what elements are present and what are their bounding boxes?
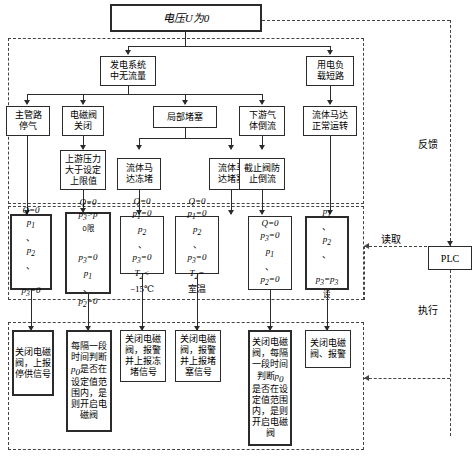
conn-blockage-bus [139,138,231,139]
box-signal-1: Q=0p1、p2、p3=0 [10,214,52,290]
conn-signal3-to-action3 [142,274,143,330]
label-read: 读取 [380,234,402,246]
box-action-4: 关闭电磁阀，报警并上报堵塞信号 [175,330,221,382]
conn-signal1-to-action1 [31,290,32,330]
arrow-to-stop-valve [259,145,265,150]
box-stop-valve-prevent-backflow-2: 截止阀防止倒流 [239,158,285,190]
box-signal-4: Q=0p1=0p2、p3=0T2=室温 [175,216,219,274]
box-action-2: 每隔一段时间判断p0是否在设定值范围内，是则开启电磁阀 [66,330,112,432]
label-feedback: 反馈 [418,139,438,151]
conn-cause6-to-signal6 [330,136,331,214]
box-solenoid-valve-closed: 电磁阀关闭 [62,106,104,136]
title-text: 电压U为0 [162,13,210,24]
box-downstream-gas-backflow: 下游气体倒流 [239,106,285,136]
arrow-signal5 [259,210,265,215]
box-load-short-circuit: 用电负载短路 [306,56,354,86]
conn-title-bus [128,46,330,47]
conn-l2a-down [128,86,129,94]
box-signal-3: Q=0p1=0p2、p3=0T2<−15℃ [120,216,164,274]
arrow-to-motor-normal [327,100,333,105]
box-fluid-motor-frozen: 流体马达冻堵 [117,158,161,190]
box-no-flow-in-power-system: 发电系统中无流量 [100,56,156,86]
arrow-to-no-flow [125,50,131,55]
rail-signals-riser [364,246,365,300]
arrow-to-load-short [327,50,333,55]
conn-cause1-to-signal1 [27,136,28,214]
arrow-to-backflow [259,100,265,105]
box-action-1: 关闭电磁阀，上报停供信号 [12,330,54,396]
title-box: 电压U为0 [110,4,262,32]
rail-execute-to-actions [364,378,450,379]
rail-read-to-plc [364,246,432,247]
arrow-to-local-blockage [182,100,188,105]
conn-signal4-to-action4 [197,274,198,330]
box-upstream-pressure-over-limit: 上游压力大于设定上限值 [60,150,106,190]
box-main-pipe-gas-stop: 主管路停气 [6,106,50,136]
label-execute: 执行 [418,305,438,317]
box-signal-2: Q=0p3>p0限p3=0p1、p2=0 [65,212,111,294]
box-local-blockage: 局部堵塞 [153,106,217,128]
arrow-to-motor-frozen [136,145,142,150]
rail-title-to-feedback [262,20,450,21]
conn-title-down [185,32,186,46]
plc-box: PLC [428,246,472,270]
box-action-3: 关闭电磁阀，报警并上报冻堵信号 [120,330,166,382]
arrow-to-main-pipe [24,100,30,105]
conn-l2a-bus [27,94,262,95]
rail-feedback-vertical [450,20,451,246]
arrow-to-motor-blocked [228,145,234,150]
box-action-6: 关闭电磁阀、报警 [305,330,351,368]
conn-signal6-to-action6 [327,290,328,330]
plc-label: PLC [441,253,459,264]
box-signal-5: Q=0p3=0p1、p2=0 [248,216,292,290]
arrow-signal4 [228,210,234,215]
conn-signal5-to-action5 [270,290,271,330]
rail-execute-vertical [450,270,451,436]
conn-blockage-down [185,128,186,138]
box-signal-6: p1、p2、p3=p3设 [305,216,349,290]
arrow-to-solenoid-closed [80,100,86,105]
box-action-5: 关闭电磁阀，每隔一段时间判断p0是否在设定值范围内，是则开启电磁阀 [248,330,292,446]
conn-signal2-to-action2 [88,294,89,330]
arrow-execute-into-actions [364,375,369,381]
box-fluid-motor-normal: 流体马达正常运转 [303,106,357,136]
